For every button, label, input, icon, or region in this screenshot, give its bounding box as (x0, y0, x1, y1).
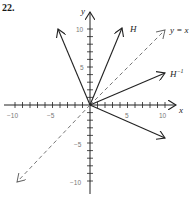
problem-number: 22. (2, 2, 15, 13)
x-tick-label: −5 (47, 112, 55, 119)
H-inverse-label: H−1 (169, 68, 184, 79)
coordinate-plane: y x H y = x H−1 −10 −5 5 10 10 5 −5 −10 (0, 0, 190, 197)
y-tick-label: 5 (80, 64, 84, 71)
x-tick-label: 10 (159, 112, 167, 119)
vector-upper-left (58, 29, 90, 105)
vector-lower-right (90, 105, 165, 138)
y-axis-label: y (80, 6, 85, 16)
line-y-equals-x (90, 30, 165, 105)
H-label: H (129, 24, 137, 34)
x-axis-label: x (178, 105, 183, 115)
x-tick-label: −10 (7, 112, 18, 119)
y-equals-x-label: y = x (169, 25, 189, 35)
y-tick-label: 10 (76, 26, 84, 33)
x-tick-label: 5 (125, 112, 129, 119)
y-tick-label: −10 (70, 179, 81, 186)
y-tick-label: −5 (74, 141, 82, 148)
vector-diagram: 22. y x H y = x (0, 0, 190, 197)
